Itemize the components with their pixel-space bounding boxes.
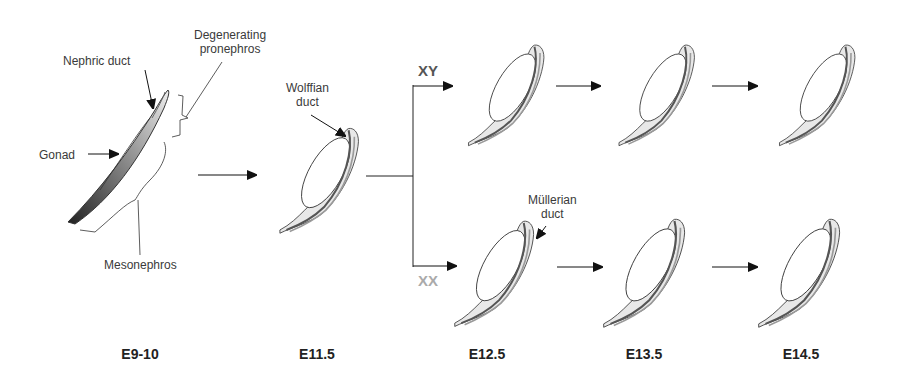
stage-label-e14-5: E14.5 bbox=[783, 346, 820, 362]
stage-label-e9-10: E9-10 bbox=[121, 346, 158, 362]
xx-e13-5-gonad bbox=[604, 219, 686, 327]
diagram-canvas bbox=[0, 0, 898, 387]
xy-e12-5-gonad bbox=[469, 45, 545, 146]
label-wolffian-duct: Wolffian duct bbox=[286, 81, 329, 109]
label-mesonephros: Mesonephros bbox=[104, 258, 177, 272]
label-mullerian-duct: Müllerian duct bbox=[528, 193, 577, 221]
stage-label-e13-5: E13.5 bbox=[626, 346, 663, 362]
xx-e14-5-gonad bbox=[759, 219, 841, 327]
label-line: duct bbox=[286, 95, 329, 109]
pronephros-pointer bbox=[186, 62, 222, 117]
wolffian-duct-pointer bbox=[311, 115, 345, 136]
mesonephros-pointer bbox=[138, 200, 140, 255]
label-nephric-duct: Nephric duct bbox=[63, 54, 130, 68]
e9-10-urogenital-ridge bbox=[68, 90, 188, 232]
label-line: Wolffian bbox=[286, 81, 329, 95]
mullerian-duct-pointer bbox=[537, 226, 546, 238]
e11-5-gonad bbox=[280, 128, 360, 233]
xy-e13-5-gonad bbox=[619, 45, 695, 146]
stage-label-e12-5: E12.5 bbox=[469, 346, 506, 362]
label-xx: XX bbox=[418, 272, 438, 289]
label-xy: XY bbox=[418, 62, 438, 79]
xx-e12-5-gonad bbox=[455, 221, 535, 326]
label-degenerating-pronephros: Degenerating pronephros bbox=[194, 28, 266, 56]
branch-connector bbox=[366, 85, 413, 267]
label-line: Müllerian bbox=[528, 193, 577, 207]
label-line: duct bbox=[528, 207, 577, 221]
label-line: Degenerating bbox=[194, 28, 266, 42]
nephric-duct-pointer bbox=[145, 70, 153, 108]
label-gonad: Gonad bbox=[39, 148, 75, 162]
stage-label-e11-5: E11.5 bbox=[299, 346, 335, 362]
label-line: pronephros bbox=[194, 42, 266, 56]
xy-e14-5-gonad bbox=[780, 45, 856, 146]
